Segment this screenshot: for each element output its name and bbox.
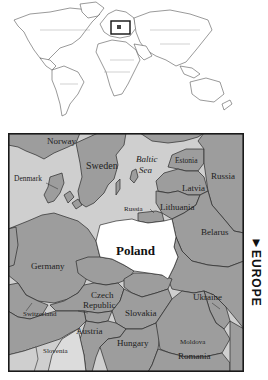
locator-poland-dot <box>117 25 121 29</box>
new-zealand <box>222 100 232 110</box>
label-czech-line2: Republic <box>83 300 116 310</box>
label-norway: Norway <box>47 136 76 146</box>
south-america <box>52 66 84 116</box>
africa <box>96 40 140 96</box>
world-continents <box>14 2 232 116</box>
label-belarus: Belarus <box>201 227 229 237</box>
europe-text: EUROPE <box>249 250 263 307</box>
label-moldova: Moldova <box>180 338 206 346</box>
label-czech-line1: Czech <box>91 290 114 300</box>
triangle-down-icon: ▼ <box>252 238 260 248</box>
southeast-asia <box>180 66 200 78</box>
label-ukraine: Ukraine <box>193 292 222 302</box>
label-latvia: Latvia <box>182 183 205 193</box>
label-russia-east: Russia <box>211 171 235 181</box>
label-lithuania: Lithuania <box>160 202 195 212</box>
label-denmark: Denmark <box>14 174 42 183</box>
label-germany: Germany <box>31 261 65 271</box>
country-ukraine-south <box>230 321 244 372</box>
label-estonia: Estonia <box>175 156 198 165</box>
label-slovakia: Slovakia <box>125 308 157 318</box>
label-switzerland: Switzerland <box>23 310 57 318</box>
label-poland: Poland <box>116 243 156 258</box>
central-america <box>40 58 56 70</box>
europe-side-label: ▼ EUROPE <box>246 238 266 328</box>
label-russia-kaliningrad: Russia <box>124 205 144 213</box>
label-baltic-sea-line2: Sea <box>139 165 152 175</box>
world-locator-map <box>0 0 268 130</box>
europe-detail-map: Norway Sweden Denmark Baltic Sea Estonia… <box>8 133 244 372</box>
australia <box>190 78 224 102</box>
label-romania: Romania <box>178 351 211 361</box>
label-hungary: Hungary <box>117 338 149 348</box>
label-austria: Austria <box>76 326 103 336</box>
label-slovenia: Slovenia <box>43 347 68 355</box>
label-baltic-sea-line1: Baltic <box>136 154 158 164</box>
label-sweden: Sweden <box>86 160 118 171</box>
